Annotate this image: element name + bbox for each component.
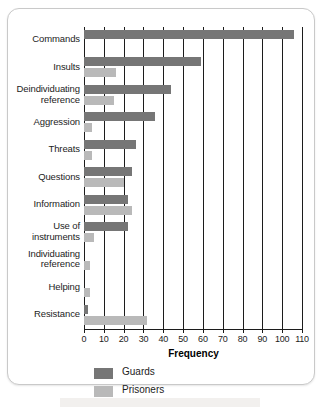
x-tick-90 xyxy=(262,329,263,333)
x-tick-label-10: 10 xyxy=(99,334,109,344)
category-label-information: Information xyxy=(6,199,80,210)
legend-swatch-prisoners xyxy=(94,386,113,397)
x-tick-100 xyxy=(282,329,283,333)
bar-group xyxy=(84,85,302,108)
bar-group xyxy=(84,250,302,273)
x-axis-title: Frequency xyxy=(84,348,303,359)
category-label-aggression: Aggression xyxy=(6,117,80,128)
bar-group xyxy=(84,222,302,245)
bar-prisoners-threats xyxy=(84,151,92,160)
bar-group xyxy=(84,277,302,300)
x-tick-70 xyxy=(223,329,224,333)
x-tick-label-60: 60 xyxy=(198,334,208,344)
x-tick-label-70: 70 xyxy=(218,334,228,344)
category-label-line: Helping xyxy=(6,282,80,293)
category-label-insults: Insults xyxy=(6,62,80,73)
bar-group xyxy=(84,140,302,163)
bar-guards-deindividuating-reference xyxy=(84,85,171,94)
category-label-line: instruments xyxy=(6,232,80,243)
bar-prisoners-helping xyxy=(84,288,90,297)
x-tick-10 xyxy=(104,329,105,333)
category-label-line: Information xyxy=(6,199,80,210)
category-label-threats: Threats xyxy=(6,144,80,155)
category-label-commands: Commands xyxy=(6,34,80,45)
category-label-helping: Helping xyxy=(6,282,80,293)
bar-guards-insults xyxy=(84,57,201,66)
caption-placeholder xyxy=(60,398,260,407)
bar-guards-aggression xyxy=(84,112,155,121)
bar-prisoners-insults xyxy=(84,68,116,77)
x-tick-80 xyxy=(243,329,244,333)
figure-frame: CommandsInsultsDeindividuatingreferenceA… xyxy=(7,8,315,385)
x-tick-label-80: 80 xyxy=(238,334,248,344)
bar-group xyxy=(84,195,302,218)
category-label-line: Aggression xyxy=(6,117,80,128)
bar-prisoners-questions xyxy=(84,178,124,187)
x-tick-label-20: 20 xyxy=(119,334,129,344)
bar-group xyxy=(84,57,302,80)
category-label-deindividuating-reference: Deindividuatingreference xyxy=(6,84,80,105)
category-label-line: Insults xyxy=(6,62,80,73)
legend-swatch-guards xyxy=(94,368,113,379)
bar-prisoners-individuating-reference xyxy=(84,261,90,270)
category-label-line: reference xyxy=(6,95,80,106)
category-label-use-of-instruments: Use ofinstruments xyxy=(6,221,80,242)
x-tick-20 xyxy=(124,329,125,333)
category-label-line: Commands xyxy=(6,34,80,45)
x-tick-label-90: 90 xyxy=(258,334,268,344)
bar-group xyxy=(84,112,302,135)
bar-guards-use-of-instruments xyxy=(84,222,128,231)
category-axis-labels: CommandsInsultsDeindividuatingreferenceA… xyxy=(8,27,80,329)
x-tick-label-100: 100 xyxy=(275,334,289,344)
x-tick-label-30: 30 xyxy=(139,334,149,344)
bar-prisoners-resistance xyxy=(84,316,147,325)
x-tick-110 xyxy=(302,329,303,333)
x-tick-30 xyxy=(143,329,144,333)
x-tick-60 xyxy=(203,329,204,333)
category-label-line: Questions xyxy=(6,172,80,183)
legend-label: Guards xyxy=(122,366,155,377)
x-tick-0 xyxy=(84,329,85,333)
x-axis-line xyxy=(84,329,303,330)
category-label-line: Threats xyxy=(6,144,80,155)
category-label-individuating-reference: Individuatingreference xyxy=(6,249,80,270)
x-tick-label-40: 40 xyxy=(158,334,168,344)
bar-prisoners-aggression xyxy=(84,123,92,132)
category-label-resistance: Resistance xyxy=(6,309,80,320)
x-tick-label-110: 110 xyxy=(295,334,309,344)
x-tick-40 xyxy=(163,329,164,333)
gridline-110 xyxy=(302,27,303,329)
category-label-line: reference xyxy=(6,259,80,270)
bar-prisoners-information xyxy=(84,206,132,215)
category-label-line: Resistance xyxy=(6,309,80,320)
bar-group xyxy=(84,167,302,190)
bar-prisoners-use-of-instruments xyxy=(84,233,94,242)
bar-guards-resistance xyxy=(84,305,88,314)
x-tick-label-0: 0 xyxy=(82,334,87,344)
bar-guards-threats xyxy=(84,140,136,149)
legend-label: Prisoners xyxy=(122,384,164,395)
x-tick-label-50: 50 xyxy=(178,334,188,344)
x-tick-50 xyxy=(183,329,184,333)
bar-prisoners-deindividuating-reference xyxy=(84,96,114,105)
category-label-questions: Questions xyxy=(6,172,80,183)
bar-guards-information xyxy=(84,195,128,204)
plot-area xyxy=(84,27,302,329)
bar-guards-commands xyxy=(84,30,294,39)
bar-group xyxy=(84,305,302,328)
bar-guards-questions xyxy=(84,167,132,176)
bar-group xyxy=(84,30,302,53)
